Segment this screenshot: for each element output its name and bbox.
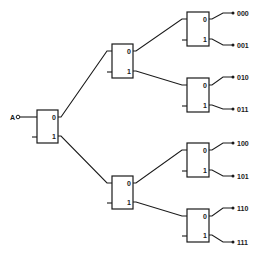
blocks-layer: 01010101010101 (32, 12, 209, 242)
output-label-010: 010 (237, 74, 249, 81)
output-label-001: 001 (237, 42, 249, 49)
wire-l2-top-1 (133, 71, 187, 85)
port-label-0: 0 (203, 16, 207, 23)
output-wire-001 (209, 39, 232, 45)
port-label-1: 1 (203, 102, 207, 109)
diagram-canvas: 01010101010101 A 00000101001110010111011… (0, 0, 265, 254)
port-label-0: 0 (203, 147, 207, 154)
output-wire-111 (209, 235, 232, 242)
port-label-1: 1 (127, 199, 131, 206)
output-label-011: 011 (237, 106, 248, 113)
flip-flop-block-l2-top: 01 (107, 44, 133, 78)
output-wire-010 (209, 77, 232, 85)
port-label-1: 1 (127, 68, 131, 75)
output-wire-011 (209, 105, 232, 109)
output-label-100: 100 (237, 140, 249, 147)
flip-flop-block-l3-2: 01 (182, 143, 209, 177)
flip-flop-block-l3-0: 01 (182, 12, 209, 46)
wire-root-0 (58, 51, 112, 117)
port-label-0: 0 (203, 213, 207, 220)
flip-flop-block-l2-bottom: 01 (107, 176, 133, 209)
port-label-1: 1 (203, 167, 207, 174)
input-label-a: A (10, 114, 15, 121)
output-label-111: 111 (237, 239, 248, 246)
output-terminal-icon (232, 142, 235, 145)
output-wire-110 (209, 208, 232, 216)
output-wire-100 (209, 143, 232, 150)
output-terminal-icon (232, 44, 235, 47)
output-terminal-icon (232, 76, 235, 79)
wire-l2-top-0 (133, 19, 187, 51)
port-label-1: 1 (203, 232, 207, 239)
flip-flop-block-l3-3: 01 (182, 209, 209, 242)
input-terminal-icon (16, 115, 20, 119)
output-label-110: 110 (237, 205, 248, 212)
io-layer: A (10, 114, 37, 121)
wire-root-1 (58, 136, 112, 183)
demux-tree-diagram: 01010101010101 A 00000101001110010111011… (0, 0, 265, 254)
port-label-0: 0 (203, 82, 207, 89)
output-terminal-icon (232, 241, 235, 244)
port-label-0: 0 (127, 180, 131, 187)
port-label-0: 0 (127, 48, 131, 55)
wire-l2-bottom-1 (133, 202, 187, 216)
wire-l2-bottom-0 (133, 150, 187, 183)
output-terminal-icon (232, 12, 235, 15)
output-label-101: 101 (237, 173, 249, 180)
output-wire-000 (209, 13, 232, 19)
port-label-1: 1 (203, 36, 207, 43)
output-terminal-icon (232, 175, 235, 178)
flip-flop-block-root: 01 (32, 110, 58, 143)
port-label-1: 1 (52, 133, 56, 140)
flip-flop-block-l3-1: 01 (182, 78, 209, 112)
output-wire-101 (209, 170, 232, 176)
output-label-000: 000 (237, 10, 249, 17)
outputs-layer: 000001010011100101110111 (209, 10, 249, 246)
port-label-0: 0 (52, 114, 56, 121)
output-terminal-icon (232, 207, 235, 210)
output-terminal-icon (232, 108, 235, 111)
